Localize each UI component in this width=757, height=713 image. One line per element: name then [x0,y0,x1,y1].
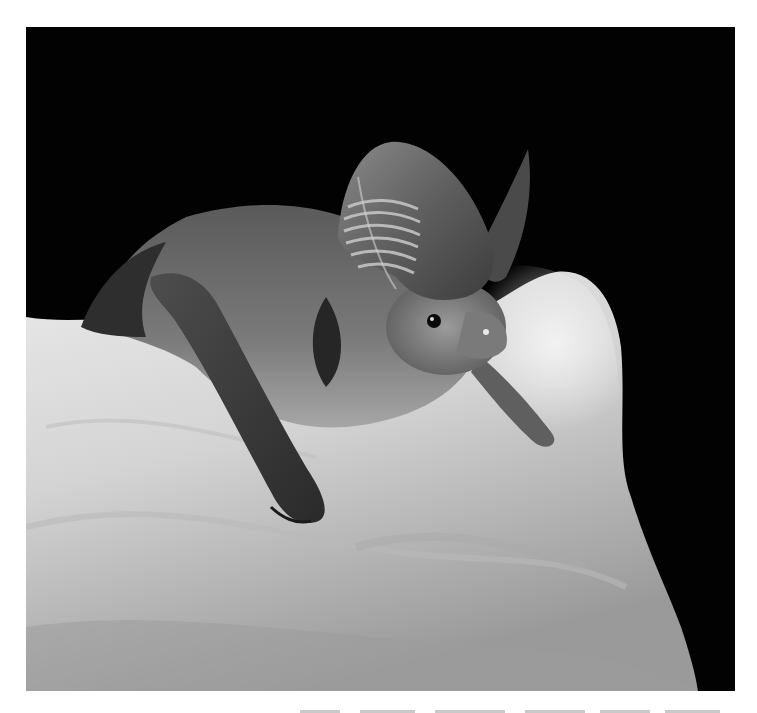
bat-photo-illustration [26,27,735,691]
clipped-caption [300,708,720,713]
bat-photo: Black-and-white photograph of a long-ear… [26,27,735,691]
